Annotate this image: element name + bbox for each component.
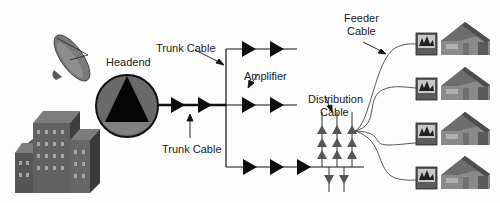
tap-icon [347,138,357,147]
cable-network-diagram: Headend Trunk Cable Trunk Cable Amplifie… [0,0,500,203]
office-building-icon [15,111,100,193]
headend-label: Headend [106,56,151,68]
amplifier-icon [297,159,311,175]
diagram-canvas [0,0,500,203]
subscriber-homes [416,22,490,189]
feeder-cable-label-line1: Feeder [344,12,379,24]
amplifier-icon [242,41,256,57]
amplifier-icon [270,97,284,113]
tap-icon [317,138,327,147]
tap-icon [339,175,349,184]
home-4 [416,156,490,189]
tap-icon [332,150,342,159]
amplifier-icon [198,97,212,113]
tap-icon [317,125,327,134]
home-2 [416,67,490,100]
amplifier-icon [270,41,284,57]
amplifier-label: Amplifier [244,70,287,82]
satellite-dish-icon [48,30,97,87]
amplifier-icon [270,159,284,175]
home-1 [416,22,490,55]
distribution-taps [317,112,357,192]
feeder-cable-label-line2: Cable [347,25,376,37]
tap-icon [317,150,327,159]
annotation-arrows [187,42,386,138]
home-3 [416,112,490,145]
amplifier-icon [243,159,257,175]
feeder-cables [355,44,417,180]
tap-icon [347,150,357,159]
trunk-cable-label-top: Trunk Cable [156,42,216,54]
tap-icon [332,138,342,147]
amplifier-icon [171,97,185,113]
distribution-cable-label-line2: Cable [320,106,349,118]
headend-icon [96,75,158,137]
tap-icon [324,175,334,184]
distribution-cable-label-line1: Distribution [308,93,363,105]
tap-icon [347,125,357,134]
tap-icon [332,125,342,134]
amplifier-icon [242,97,256,113]
trunk-cable-label-bottom: Trunk Cable [162,143,222,155]
